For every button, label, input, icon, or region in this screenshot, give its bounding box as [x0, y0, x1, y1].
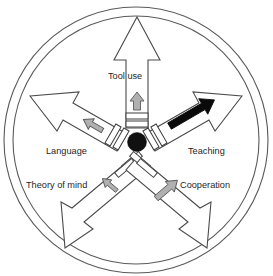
- spoke-label-cooperation: Cooperation: [180, 180, 230, 190]
- spoke-label-teaching: Teaching: [188, 146, 225, 156]
- radiating-arrows-diagram: Tool use Language Teaching: [0, 0, 273, 276]
- spoke-label-tool-use: Tool use: [108, 71, 142, 81]
- spoke-label-theory-of-mind: Theory of mind: [26, 180, 87, 190]
- cooperation-arrow-outline: [126, 156, 211, 248]
- spoke-label-language: Language: [46, 146, 87, 156]
- spoke-theory-of-mind[interactable]: Theory of mind: [26, 152, 146, 248]
- spoke-tool-use[interactable]: Tool use: [108, 17, 160, 128]
- tool-use-segment-2: [126, 121, 148, 127]
- spoke-cooperation[interactable]: Cooperation: [126, 152, 230, 248]
- spoke-teaching[interactable]: Teaching: [143, 92, 242, 156]
- diagram-root: Tool use Language Teaching: [0, 0, 273, 276]
- central-hub-circle: [128, 133, 147, 152]
- spoke-language[interactable]: Language: [30, 92, 129, 156]
- tool-use-segment-1: [126, 113, 148, 119]
